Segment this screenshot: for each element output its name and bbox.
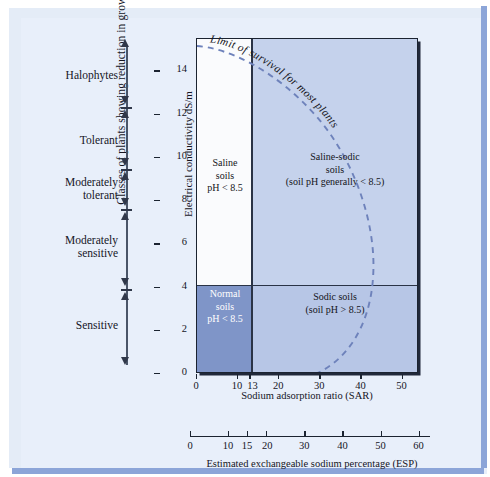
class-divider-2-arrow-down	[121, 158, 129, 166]
quadrant-label-normal: Normal soils pH < 8.5	[199, 288, 251, 326]
y-tick-14	[154, 70, 160, 71]
x-tick-0	[196, 374, 197, 379]
y-tick-label-4: 4	[182, 280, 187, 291]
y-tick-label-2: 2	[182, 323, 187, 334]
esp-tick-60	[419, 431, 420, 437]
x-tick-20	[278, 374, 279, 379]
y-tick-label-10: 10	[177, 150, 188, 161]
y-tick-2	[154, 330, 160, 331]
class-divider-4-bar	[121, 289, 132, 291]
class-label-sensitive-line1: Sensitive	[76, 319, 118, 331]
esp-tick-label-15: 15	[242, 440, 253, 451]
esp-tick-50	[381, 431, 382, 437]
class-divider-2-bar	[121, 169, 132, 171]
class-divider-3-arrow-up	[121, 212, 129, 220]
frame-border-right	[481, 6, 487, 468]
esp-tick-label-10: 10	[223, 440, 234, 451]
quadrant-label-sodic-line1: Sodic soils	[313, 291, 357, 302]
class-label-moderately-tolerant-line1: Moderately	[65, 176, 118, 188]
esp-tick-label-20: 20	[262, 440, 273, 451]
quadrant-label-saline-sodic: Saline-sodic soils (soil pH generally < …	[255, 151, 415, 189]
y-tick-6	[154, 243, 160, 244]
class-label-halophytes: Halophytes	[66, 69, 118, 82]
esp-tick-0	[190, 431, 191, 437]
esp-axis: 0 10 15 20 30 40 50 60 Estimated exchang…	[190, 436, 430, 439]
esp-tick-30	[304, 431, 305, 437]
y-tick-8	[154, 200, 160, 201]
class-divider-3-bar	[121, 209, 132, 211]
axis-arrow-bottom	[121, 357, 129, 365]
class-divider-4-arrow-down	[121, 278, 129, 286]
plot-area: Saline soils pH < 8.5 Saline-sodic soils…	[196, 38, 418, 373]
esp-tick-40	[342, 431, 343, 437]
class-divider-3-arrow-down	[121, 198, 129, 206]
figure-page: Classes of plants showing reduction in g…	[0, 0, 490, 477]
main-chart: Electrical conductivity dS/m Saline soil…	[160, 28, 460, 388]
quadrant-label-saline-sodic-line2: soils	[326, 164, 344, 175]
y-tick-12	[154, 114, 160, 115]
class-label-moderately-sensitive-line1: Moderately	[65, 234, 118, 246]
class-label-sensitive: Sensitive	[76, 319, 118, 332]
esp-tick-15	[247, 431, 248, 437]
y-tick-label-8: 8	[182, 193, 187, 204]
quadrant-label-saline-line2: soils	[216, 170, 234, 181]
axis-arrow-top	[121, 39, 129, 47]
x-tick-40	[360, 374, 361, 379]
quadrant-label-normal-line3: pH < 8.5	[207, 313, 242, 324]
esp-tick-label-40: 40	[337, 440, 348, 451]
x-tick-13	[249, 374, 250, 379]
esp-tick-label-50: 50	[375, 440, 386, 451]
quadrant-label-normal-line1: Normal	[210, 288, 241, 299]
class-label-moderately-tolerant-line2: tolerant	[83, 189, 118, 201]
esp-axis-title: Estimated exchangeable sodium percentage…	[182, 458, 442, 469]
quadrant-label-saline: Saline soils pH < 8.5	[199, 157, 251, 195]
x-axis-title-sar: Sodium adsorption ratio (SAR)	[196, 390, 418, 401]
class-label-halophytes-line1: Halophytes	[66, 69, 118, 81]
esp-tick-20	[266, 431, 267, 437]
quadrant-label-saline-line1: Saline	[213, 157, 238, 168]
quadrant-label-saline-line3: pH < 8.5	[207, 182, 242, 193]
y-tick-0	[154, 373, 160, 374]
x-tick-10	[237, 374, 238, 379]
class-label-moderately-sensitive-line2: sensitive	[78, 247, 118, 259]
x-tick-50	[402, 374, 403, 379]
quadrant-label-sodic-line2: (soil pH > 8.5)	[306, 304, 365, 315]
esp-tick-label-30: 30	[299, 440, 310, 451]
esp-tick-10	[228, 431, 229, 437]
y-tick-label-6: 6	[182, 236, 187, 247]
quadrant-label-sodic: Sodic soils (soil pH > 8.5)	[255, 291, 415, 316]
class-label-tolerant: Tolerant	[80, 134, 118, 147]
y-tick-label-12: 12	[177, 107, 188, 118]
y-tick-10	[154, 157, 160, 158]
quadrant-label-saline-sodic-line3: (soil pH generally < 8.5)	[286, 176, 385, 187]
class-divider-2-arrow-up	[121, 172, 129, 180]
class-divider-4-arrow-up	[121, 292, 129, 300]
class-divider-1-arrow-up	[121, 110, 129, 118]
class-divider-1-arrow-down	[121, 96, 129, 104]
x-tick-30	[319, 374, 320, 379]
quadrant-label-normal-line2: soils	[216, 301, 234, 312]
esp-tick-label-60: 60	[413, 440, 424, 451]
class-divider-1-bar	[121, 107, 132, 109]
plant-classes-panel: Classes of plants showing reduction in g…	[30, 30, 170, 380]
esp-axis-line	[190, 436, 430, 437]
quadrant-label-saline-sodic-line1: Saline-sodic	[310, 151, 359, 162]
class-label-moderately-sensitive: Moderately sensitive	[65, 234, 118, 259]
esp-tick-label-0: 0	[187, 440, 192, 451]
class-label-moderately-tolerant: Moderately tolerant	[65, 176, 118, 201]
y-tick-4	[154, 287, 160, 288]
y-tick-label-0: 0	[182, 366, 187, 377]
class-label-tolerant-line1: Tolerant	[80, 134, 118, 146]
plant-classes-axis-line	[126, 47, 128, 365]
y-tick-label-14: 14	[177, 63, 188, 74]
